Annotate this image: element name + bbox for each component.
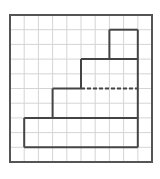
staircase-diagram bbox=[0, 0, 160, 179]
